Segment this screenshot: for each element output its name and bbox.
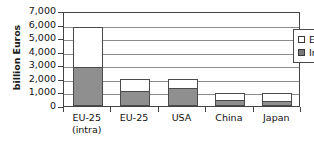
legend-item-exports: Exports — [298, 33, 314, 46]
bar-stack — [168, 79, 198, 106]
bar-stack — [73, 27, 103, 106]
y-tick-label: 5,000 — [12, 32, 56, 43]
plot-area: Exports Imports — [63, 12, 300, 107]
y-tick-label: 4,000 — [12, 46, 56, 57]
bar-segment-exports — [120, 79, 150, 91]
x-tick-mark — [300, 107, 301, 112]
bar-segment-exports — [168, 79, 198, 89]
legend-item-imports: Imports — [298, 46, 314, 59]
bar-segment-imports — [215, 100, 245, 106]
bar-segment-imports — [262, 101, 292, 106]
legend-label-exports: Exports — [309, 34, 314, 45]
bar-segment-exports — [215, 93, 245, 100]
x-category-label: Japan — [253, 112, 300, 124]
x-category-label: EU-25 — [110, 112, 157, 124]
y-tick-label: 3,000 — [12, 59, 56, 70]
y-tick-label: 0 — [12, 100, 56, 111]
bar-segment-exports — [73, 27, 103, 67]
x-category-name: Japan — [263, 112, 290, 123]
legend-label-imports: Imports — [309, 47, 314, 58]
y-tick-label: 6,000 — [12, 19, 56, 30]
y-tick-label: 2,000 — [12, 73, 56, 84]
x-category-sublabel: (intra) — [63, 124, 110, 136]
bar-segment-imports — [73, 67, 103, 106]
x-category-label: EU-25(intra) — [63, 112, 110, 136]
x-category-label: China — [205, 112, 252, 124]
chart-figure: billion Euros 7,0006,0005,0004,0003,0002… — [0, 0, 314, 142]
x-category-name: USA — [172, 112, 192, 123]
x-category-name: China — [215, 112, 242, 123]
x-category-name: EU-25 — [72, 112, 100, 123]
bar-segment-imports — [120, 91, 150, 106]
y-tick-label: 7,000 — [12, 5, 56, 16]
chart-legend: Exports Imports — [293, 29, 314, 63]
bar-segment-imports — [168, 88, 198, 106]
bar-stack — [262, 93, 292, 106]
y-tick-label: 1,000 — [12, 86, 56, 97]
bar-stack — [215, 93, 245, 106]
bar-stack — [120, 79, 150, 106]
bar-segment-exports — [262, 93, 292, 100]
imports-swatch-icon — [298, 49, 305, 56]
x-category-label: USA — [158, 112, 205, 124]
x-category-name: EU-25 — [120, 112, 148, 123]
exports-swatch-icon — [298, 36, 305, 43]
